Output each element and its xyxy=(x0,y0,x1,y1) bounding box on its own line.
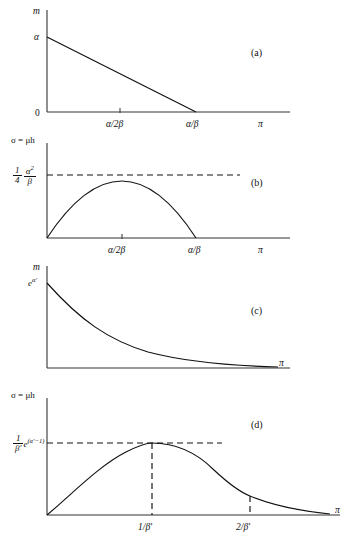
panel-d: 1/β' 2/β' π (d) xyxy=(0,390,351,544)
panel-b-level-den-1: 4 xyxy=(13,176,22,185)
panel-a-y-intercept-label: α xyxy=(34,32,40,42)
panel-c-curve xyxy=(47,283,278,367)
panel-b-level-numer-2-exponent: 2 xyxy=(30,164,33,171)
panel-b-max-level-label: 1 4 α2 β xyxy=(13,165,36,186)
figure-panel-container: m α 0 α/2β α/β π (a) α/2β α/β π (b) σ = … xyxy=(0,0,351,544)
panel-b-y-axis-label-text: σ = μh xyxy=(11,135,35,145)
panel-b-level-den-2: β xyxy=(24,177,36,186)
panel-c-x-axis-label: π xyxy=(279,358,284,368)
panel-b: α/2β α/β π (b) xyxy=(0,133,351,258)
panel-c-y-intercept-label: eα' xyxy=(28,277,37,288)
panel-d-x-axis-label: π xyxy=(335,505,340,515)
panel-d-level-fraction: 1 β' xyxy=(13,434,23,453)
panel-c: m π (c) xyxy=(0,258,351,383)
panel-b-level-fraction-quarter: 1 4 xyxy=(13,166,22,185)
panel-c-id: (c) xyxy=(251,305,262,317)
panel-d-id: (d) xyxy=(251,419,263,431)
panel-a-id: (a) xyxy=(251,47,262,59)
panel-a-xtick-label-2: α/β xyxy=(186,119,199,129)
panel-d-max-level-label: 1 β' e(α'−1) xyxy=(13,434,44,453)
panel-b-curve xyxy=(47,181,196,238)
panel-a: m α 0 α/2β α/β π (a) xyxy=(0,0,351,130)
panel-b-x-axis-label: π xyxy=(258,245,263,255)
panel-c-y-intercept-exponent: α' xyxy=(32,276,37,283)
panel-a-x-axis-label: π xyxy=(258,119,263,129)
panel-b-xtick-label-2: α/β xyxy=(188,245,201,255)
panel-d-level-exp-exponent: (α'−1) xyxy=(27,437,44,444)
panel-d-xtick-label-2: 2/β' xyxy=(236,522,251,532)
panel-b-level-fraction-alpha2beta: α2 β xyxy=(24,165,36,186)
panel-a-y-axis-label: m xyxy=(33,6,40,16)
panel-b-y-axis-label: σ = μh xyxy=(11,136,35,145)
panel-a-xtick-label-1: α/2β xyxy=(106,119,123,129)
panel-a-curve xyxy=(47,37,196,112)
panel-c-y-axis-label: m xyxy=(33,262,40,272)
panel-d-xtick-label-1: 1/β' xyxy=(138,522,153,532)
panel-d-y-axis-label: σ = μh xyxy=(11,391,35,400)
panel-b-xtick-label-1: α/2β xyxy=(108,245,125,255)
panel-a-origin-label: 0 xyxy=(35,108,40,118)
panel-b-id: (b) xyxy=(251,177,263,189)
panel-d-level-den: β' xyxy=(13,444,23,453)
panel-d-y-axis-label-text: σ = μh xyxy=(11,390,35,400)
panel-d-curve xyxy=(47,443,330,515)
panel-d-level-exp-term: e(α'−1) xyxy=(23,438,44,449)
